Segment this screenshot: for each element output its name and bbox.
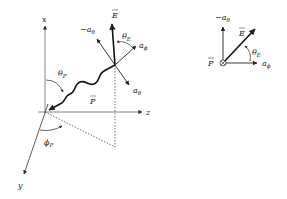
right-P-label: P [207, 59, 214, 68]
phi-P-label: ϕP [44, 138, 53, 148]
a-theta-label: aθ [133, 86, 142, 96]
y-axis-label: y [17, 181, 23, 190]
E-label: E [111, 11, 118, 20]
P-label: P [89, 97, 96, 106]
left-diagram: x z y P θP ϕP E −aθ [17, 10, 151, 190]
theta-E-arc [117, 42, 133, 48]
theta-P-label: θP [58, 69, 67, 79]
phi-P-arc [40, 126, 62, 131]
theta-E-label: θE [122, 32, 131, 42]
a-phi-label: aϕ [139, 41, 148, 52]
neg-a-theta-label: −aθ [80, 25, 95, 35]
a-phi-vector [115, 46, 136, 65]
right-theta-E-arc [245, 46, 250, 61]
right-theta-E-label: θE [252, 48, 261, 58]
right-E-label: E [238, 29, 245, 38]
right-a-phi-label: aϕ [262, 59, 271, 70]
right-diagram: −aθ aϕ E θE P [207, 13, 271, 70]
x-axis-label: x [42, 15, 47, 24]
a-theta-vector [115, 65, 129, 85]
neg-a-theta-vector [97, 39, 115, 65]
theta-P-arc [46, 80, 63, 92]
z-axis-label: z [145, 108, 151, 117]
projection-diagonal [45, 112, 115, 147]
E-vector [112, 24, 115, 65]
polarization-diagram: x z y P θP ϕP E −aθ [0, 0, 287, 199]
right-neg-a-theta-label: −aθ [215, 13, 230, 23]
